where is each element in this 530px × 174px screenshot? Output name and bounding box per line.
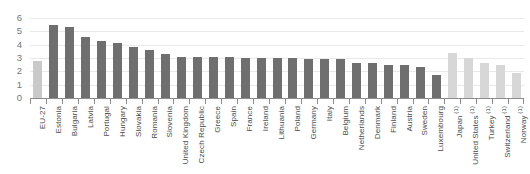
bar-slot [413,18,429,98]
bar-poland [288,58,297,98]
tick-slot [142,99,158,104]
x-tick-mark [173,99,174,104]
bar-denmark [368,63,377,98]
x-tick-mark [221,99,222,104]
category-label-slot: Italy [317,105,333,173]
category-label-slot: Poland [285,105,301,173]
category-label-slot: Belgium [333,105,349,173]
bar-hungary [113,43,122,98]
category-label-slot: Slovenia [158,105,174,173]
bar-latvia [81,37,90,98]
tick-slot [413,99,429,104]
bar-eu-27 [33,61,42,98]
category-label-slot: Bulgaria [62,105,78,173]
category-label-slot: Romania [142,105,158,173]
bar-slot [62,18,78,98]
bar-chart: 0123456 EU-27EstoniaBulgariaLatviaPortug… [0,0,530,174]
tick-slot [173,99,189,104]
bar-slot [78,18,94,98]
x-tick-mark [492,99,493,104]
bar-slot [173,18,189,98]
bar-slot [269,18,285,98]
tick-slot [189,99,205,104]
tick-slot [126,99,142,104]
bar-slot [381,18,397,98]
bar-france [241,58,250,98]
bar-belgium [336,59,345,98]
category-label-slot: Turkey (1) [476,105,492,173]
tick-slot [508,99,524,104]
tick-slot [62,99,78,104]
category-label-slot: France [237,105,253,173]
x-tick-mark [205,99,206,104]
category-label-slot: Finland [381,105,397,173]
bar-slot [205,18,221,98]
category-label-slot: Austria [397,105,413,173]
bar-slot [301,18,317,98]
x-tick-mark [158,99,159,104]
category-label-slot: Portugal [94,105,110,173]
tick-slot [30,99,46,104]
bar-slot [508,18,524,98]
bar-slot [46,18,62,98]
category-label-slot: Spain [221,105,237,173]
tick-slot [78,99,94,104]
bar-netherlands [352,63,361,98]
category-label-slot: Switzerland (1) [492,105,508,173]
y-tick-label: 4 [0,40,22,50]
x-tick-mark [476,99,477,104]
category-label-slot: United States (1) [460,105,476,173]
category-label-slot: Latvia [78,105,94,173]
bar-slot [349,18,365,98]
bar-series [30,18,524,98]
category-label-slot: Norway (1) [508,105,524,173]
tick-slot [110,99,126,104]
tick-slot [237,99,253,104]
category-label-slot: Czech Republic [189,105,205,173]
bar-slot [492,18,508,98]
category-label-slot: United Kingdom [173,105,189,173]
tick-slot [205,99,221,104]
bar-slot [158,18,174,98]
bar-united-states [464,58,473,98]
x-tick-mark [365,99,366,104]
bar-slot [365,18,381,98]
x-axis-labels: EU-27EstoniaBulgariaLatviaPortugalHungar… [30,105,524,173]
category-label-slot: Netherlands [349,105,365,173]
category-label-slot: EU-27 [30,105,46,173]
category-label-slot: Sweden [413,105,429,173]
tick-slot [476,99,492,104]
tick-slot [444,99,460,104]
category-label-slot: Denmark [365,105,381,173]
footnote-marker: (1) [501,106,507,115]
bar-slot [142,18,158,98]
tick-slot [460,99,476,104]
bar-slot [428,18,444,98]
category-label-slot: Luxembourg [428,105,444,173]
bar-slot [253,18,269,98]
bar-estonia [49,25,58,98]
category-label-slot: Japan (1) [444,105,460,173]
y-tick-label: 6 [0,13,22,23]
bar-slovakia [129,47,138,98]
footnote-marker: (1) [517,106,523,115]
category-label-slot: Ireland [253,105,269,173]
category-label-slot: Estonia [46,105,62,173]
bar-romania [145,50,154,98]
x-tick-mark [428,99,429,104]
x-tick-mark [333,99,334,104]
x-tick-mark [317,99,318,104]
category-label-slot: Hungary [110,105,126,173]
bar-greece [209,57,218,98]
tick-slot [285,99,301,104]
tick-slot [428,99,444,104]
x-axis-ticks [30,99,524,104]
y-axis: 0123456 [0,18,26,98]
bar-japan [448,53,457,98]
x-tick-mark [30,99,31,104]
y-tick-label: 3 [0,53,22,63]
x-tick-mark [285,99,286,104]
x-tick-mark [62,99,63,104]
x-tick-mark [126,99,127,104]
tick-slot [94,99,110,104]
